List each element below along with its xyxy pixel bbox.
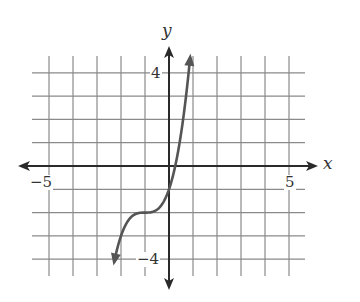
y-axis-label: y	[162, 22, 172, 39]
axes	[18, 46, 318, 290]
x-tick-label-neg5: −5	[29, 175, 53, 190]
x-tick-label-5: 5	[284, 175, 296, 190]
graph-plot	[0, 0, 360, 302]
y-tick-label-neg4: −4	[136, 252, 160, 267]
y-tick-label-4: 4	[150, 66, 162, 81]
function-curve	[111, 54, 194, 266]
x-axis-label: x	[323, 155, 333, 172]
